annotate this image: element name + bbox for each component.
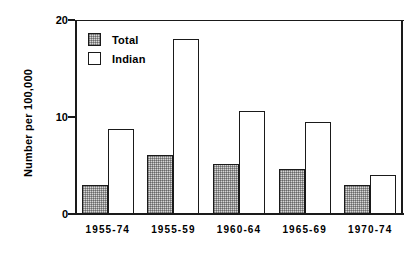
bar-indian-1970-74: [370, 175, 396, 214]
x-tick-label-1955-74: 1955-74: [75, 224, 141, 235]
y-axis-tick-labels: 01020: [28, 20, 68, 215]
legend-swatch-indian-icon: [88, 52, 101, 65]
bar-indian-1955-59: [173, 39, 199, 214]
bar-total-1960-64: [213, 164, 239, 214]
legend-label-total: Total: [112, 34, 138, 46]
bar-total-1955-74: [82, 185, 108, 214]
bar-indian-1960-64: [239, 111, 265, 214]
bar-chart: Number per 100,000 01020 1955-741955-591…: [0, 0, 420, 254]
y-tick-0: [68, 213, 75, 215]
y-tick-label-20: 20: [28, 15, 68, 26]
legend-label-indian: Indian: [112, 53, 146, 65]
bar-total-1965-69: [279, 169, 305, 214]
legend-item-total: Total: [88, 30, 146, 49]
y-tick-20: [68, 19, 75, 21]
y-tick-label-10: 10: [28, 112, 68, 123]
x-tick-label-1960-64: 1960-64: [206, 224, 272, 235]
x-tick-label-1955-59: 1955-59: [141, 224, 207, 235]
x-axis-tick-labels: 1955-741955-591960-641965-691970-74: [75, 224, 404, 244]
legend-item-indian: Indian: [88, 49, 146, 68]
legend-swatch-total-icon: [88, 33, 101, 46]
y-tick-label-0: 0: [28, 209, 68, 220]
x-tick-label-1970-74: 1970-74: [337, 224, 403, 235]
bar-total-1970-74: [344, 185, 370, 214]
axis-top: [75, 20, 404, 21]
plot-right-border: [401, 20, 403, 215]
chart-legend: Total Indian: [88, 30, 146, 68]
y-tick-10: [68, 116, 75, 118]
bar-total-1955-59: [147, 155, 173, 214]
y-axis-line: [75, 20, 77, 215]
bar-indian-1965-69: [305, 122, 331, 214]
x-tick-label-1965-69: 1965-69: [272, 224, 338, 235]
bar-indian-1955-74: [108, 129, 134, 214]
